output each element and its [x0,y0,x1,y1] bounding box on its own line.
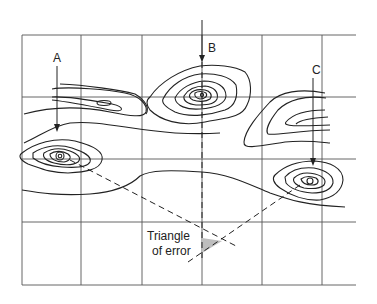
point-label-a: A [53,51,61,65]
point-label-c: C [312,63,321,77]
summit-a-contours [20,140,102,173]
point-label-b: B [208,41,216,55]
summit-b-contours [147,65,251,123]
contour-map-diagram: A B C Triangle of error [0,0,377,304]
triangle-of-error-caption-line1: Triangle [147,229,190,243]
bearing-lines [54,20,316,262]
summit-c-contours [273,161,343,200]
triangle-of-error-caption-line2: of error [152,244,191,258]
spur-contours [244,91,330,147]
